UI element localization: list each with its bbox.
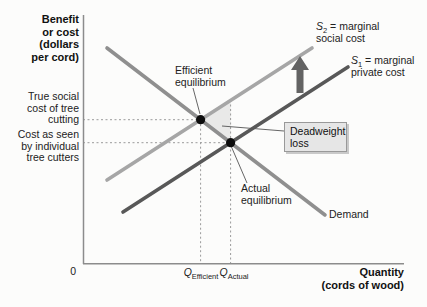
y-tick2-line1: Cost as seen (18, 128, 79, 140)
s1-var: S (351, 54, 358, 66)
y-tick1-line2: cost of tree (27, 102, 79, 114)
y-axis-title-line1: Benefit (42, 13, 79, 25)
y-tick-cost-as-seen: Cost as seen by individual tree cutters (6, 129, 79, 164)
x-axis-title: Quantity (cords of wood) (298, 266, 404, 291)
y-axis-title-line4: per cord) (31, 51, 79, 63)
q-actual-var: Q (219, 266, 227, 278)
externality-supply-demand-figure: Benefit or cost (dollars per cord) True … (0, 0, 427, 307)
x-axis-title-line1: Quantity (359, 266, 404, 278)
actual-equilibrium-label: Actual equilibrium (241, 183, 292, 206)
s2-var: S (316, 20, 323, 32)
actual-line1: Actual (241, 182, 270, 194)
s2-curve-label: S2 = marginal social cost (316, 21, 379, 44)
x-axis-title-line2: (cords of wood) (322, 279, 405, 291)
s1-line2: private cost (351, 66, 405, 78)
efficient-equilibrium-label: Efficient equilibrium (175, 65, 226, 88)
y-tick2-line2: by individual (21, 140, 79, 152)
efficient-equilibrium-dot (196, 115, 205, 124)
s1-curve-label: S1 = marginal private cost (351, 55, 414, 78)
y-tick1-line1: True social (28, 90, 79, 102)
s2-line2: social cost (316, 32, 365, 44)
origin-label: 0 (62, 266, 76, 278)
x-tick-q-actual: QActual (212, 267, 256, 279)
y-axis-title: Benefit or cost (dollars per cord) (6, 13, 79, 63)
deadweight-line2: loss (290, 137, 309, 149)
deadweight-line1: Deadweight (290, 125, 345, 137)
efficient-line2: equilibrium (175, 76, 226, 88)
q-efficient-var: Q (184, 266, 192, 278)
y-tick2-line3: tree cutters (26, 151, 79, 163)
actual-line2: equilibrium (241, 194, 292, 206)
q-actual-sub: Actual (228, 272, 249, 281)
origin-zero: 0 (70, 265, 76, 277)
axes (83, 15, 404, 264)
y-tick1-line3: cutting (48, 113, 79, 125)
s1-rest: = marginal (362, 54, 414, 66)
y-axis-title-line2: or cost (42, 26, 79, 38)
efficient-pointer-line (193, 88, 200, 114)
demand-text: Demand (329, 208, 369, 220)
demand-curve-label: Demand (329, 209, 369, 221)
y-tick-true-social-cost: True social cost of tree cutting (6, 91, 79, 126)
deadweight-loss-box: Deadweight loss (284, 122, 347, 152)
y-axis-title-line3: (dollars (39, 38, 79, 50)
actual-equilibrium-dot (226, 138, 235, 147)
s2-rest: = marginal (327, 20, 379, 32)
efficient-line1: Efficient (175, 64, 212, 76)
